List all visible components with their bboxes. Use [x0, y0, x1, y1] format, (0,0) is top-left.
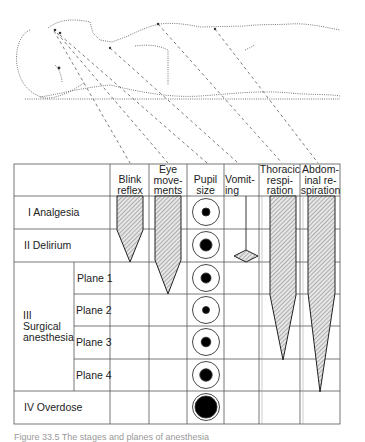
- row-label-analgesia: I Analgesia: [28, 207, 79, 218]
- header-abdominal-respiration: Abdom- inal re- spiration: [300, 164, 341, 196]
- blink-reflex-bar: [117, 196, 143, 262]
- figure-caption: Figure 33.5 The stages and planes of ane…: [14, 432, 209, 442]
- row-label-delirium: II Delirium: [24, 240, 71, 251]
- row-label-plane-3: Plane 3: [76, 337, 112, 348]
- row-label-plane-1: Plane 1: [77, 273, 113, 284]
- leader-lines: [54, 24, 318, 163]
- eye-movements-bar: [155, 196, 181, 294]
- header-thoracic-respiration: Thoracic respi- ration: [258, 164, 302, 196]
- thoracic-respiration-bar: [270, 196, 296, 360]
- header-blink-reflex: Blink reflex: [111, 174, 149, 195]
- patient-illustration: [17, 20, 341, 99]
- row-label-surgical-anesthesia: III Surgical anesthesia: [23, 310, 74, 343]
- header-vomiting: Vomit- ing: [225, 174, 261, 195]
- row-label-overdose: IV Overdose: [24, 402, 82, 413]
- header-eye-movements: Eye move- ments: [149, 164, 187, 196]
- abdominal-respiration-bar: [308, 196, 335, 392]
- row-label-plane-2: Plane 2: [76, 305, 112, 316]
- row-label-plane-4: Plane 4: [76, 370, 112, 381]
- pupil-column: [193, 199, 220, 421]
- header-pupil-size: Pupil size: [187, 174, 224, 195]
- figure-graphic: [0, 0, 365, 442]
- vomiting-diamond: [234, 250, 258, 262]
